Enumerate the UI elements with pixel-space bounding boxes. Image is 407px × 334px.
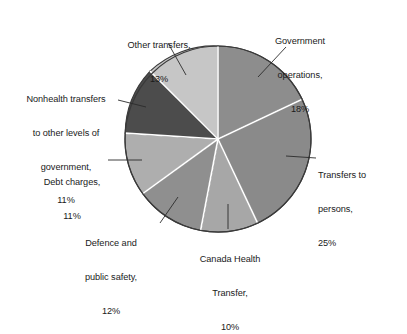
slice-label-canada-health-transfer: Canada Health Transfer, 10%	[182, 232, 278, 334]
slice-label-government-operations: Government operations, 18%	[248, 14, 352, 137]
slice-label-transfers-to-persons-line1: Transfers to	[318, 170, 404, 181]
slice-label-debt-charges-line1: Debt charges,	[22, 177, 122, 188]
slice-label-nonhealth-transfers-line1: Nonhealth transfers	[6, 94, 126, 105]
slice-label-defence-and-public-safety: Defence and public safety, 12%	[62, 216, 160, 334]
slice-label-defence-and-public-safety-line1: Defence and	[62, 238, 160, 249]
slice-label-government-operations-line2: operations,	[248, 70, 352, 81]
slice-label-canada-health-transfer-line2: Transfer,	[182, 288, 278, 299]
slice-label-defence-and-public-safety-line3: 12%	[62, 306, 160, 317]
slice-label-transfers-to-persons: Transfers to persons, 25%	[318, 148, 404, 271]
slice-label-transfers-to-persons-line2: persons,	[318, 204, 404, 215]
slice-label-government-operations-line1: Government	[248, 36, 352, 47]
slice-label-canada-health-transfer-line1: Canada Health	[182, 254, 278, 265]
slice-label-other-transfers-line1: Other transfers,	[104, 40, 214, 51]
slice-label-defence-and-public-safety-line2: public safety,	[62, 272, 160, 283]
slice-label-nonhealth-transfers-line2: to other levels of	[6, 128, 126, 139]
slice-label-transfers-to-persons-line3: 25%	[318, 238, 404, 249]
slice-label-canada-health-transfer-line3: 10%	[182, 322, 278, 333]
slice-label-government-operations-line3: 18%	[248, 104, 352, 115]
